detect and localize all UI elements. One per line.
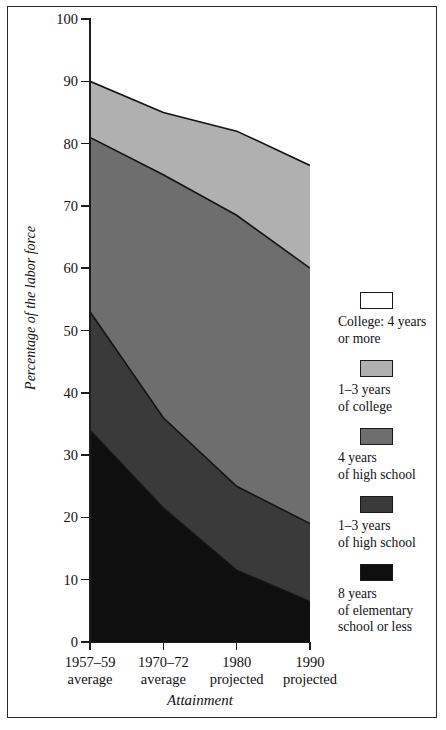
y-axis-tick-label: 30 — [64, 448, 79, 463]
y-axis-tick-label: 50 — [64, 324, 79, 339]
x-axis-tick — [89, 642, 91, 650]
x-axis-title: Attainment — [90, 692, 310, 709]
x-axis-tick-label-line1: 1990 — [296, 654, 325, 670]
x-axis-tick — [163, 642, 165, 650]
legend-label-line2: of college — [338, 399, 438, 416]
legend-label-line2: or more — [338, 331, 438, 348]
x-axis-tick-label-line1: 1980 — [222, 654, 251, 670]
y-axis-tick — [81, 330, 90, 332]
y-axis-tick-label: 60 — [64, 261, 79, 276]
y-axis-tick — [81, 579, 90, 581]
legend-swatch — [360, 496, 393, 513]
x-axis-tick-label: 1990projected — [265, 654, 355, 688]
legend-label-line1: 4 years — [338, 450, 438, 467]
y-axis-tick — [81, 81, 90, 83]
y-axis-tick-label: 90 — [64, 74, 79, 89]
y-axis-tick-label: 40 — [64, 386, 79, 401]
x-axis-tick — [236, 642, 238, 650]
y-axis-title: Percentage of the labor force — [23, 193, 39, 423]
x-axis-tick-label-line1: 1970–72 — [138, 654, 189, 670]
legend-label-line1: 1–3 years — [338, 382, 438, 399]
figure-container: 0102030405060708090100 1957–59average197… — [0, 0, 446, 730]
chart-legend: College: 4 yearsor more1–3 yearsof colle… — [338, 292, 438, 649]
x-axis-line — [89, 642, 311, 644]
legend-label-line2: of high school — [338, 467, 438, 484]
y-axis-tick — [81, 205, 90, 207]
area-bands — [90, 19, 310, 642]
legend-label-line1: 1–3 years — [338, 518, 438, 535]
legend-swatch — [360, 428, 393, 445]
plot-area — [90, 19, 310, 642]
y-axis-tick-label: 20 — [64, 510, 79, 525]
legend-entry[interactable]: 4 yearsof high school — [338, 428, 438, 483]
x-axis-tick-label-line1: 1957–59 — [65, 654, 116, 670]
y-axis-tick — [81, 18, 90, 20]
stacked-area-svg — [90, 19, 310, 642]
y-axis-tick-label: 100 — [56, 12, 78, 27]
legend-entry[interactable]: 1–3 yearsof college — [338, 360, 438, 415]
y-axis-tick-label: 10 — [64, 573, 79, 588]
x-axis-tick — [309, 642, 311, 650]
y-axis-tick — [81, 454, 90, 456]
y-axis-tick — [81, 143, 90, 145]
y-axis-tick — [81, 392, 90, 394]
legend-label-line1: 8 years — [338, 586, 438, 603]
legend-swatch — [360, 564, 393, 581]
legend-entry[interactable]: College: 4 yearsor more — [338, 292, 438, 347]
legend-label-line2: of elementary — [338, 603, 438, 620]
x-axis-tick-label-line2: projected — [265, 671, 355, 688]
y-axis-tick-label: 0 — [71, 635, 78, 650]
legend-label-line3: school or less — [338, 619, 438, 636]
legend-entry[interactable]: 8 yearsof elementaryschool or less — [338, 564, 438, 636]
legend-swatch — [360, 360, 393, 377]
y-axis-tick — [81, 267, 90, 269]
legend-swatch — [360, 292, 393, 309]
y-axis-tick-label: 80 — [64, 137, 79, 152]
legend-label-line1: College: 4 years — [338, 314, 438, 331]
y-axis-tick — [81, 517, 90, 519]
y-axis-tick-label: 70 — [64, 199, 79, 214]
legend-entry[interactable]: 1–3 yearsof high school — [338, 496, 438, 551]
legend-label-line2: of high school — [338, 535, 438, 552]
